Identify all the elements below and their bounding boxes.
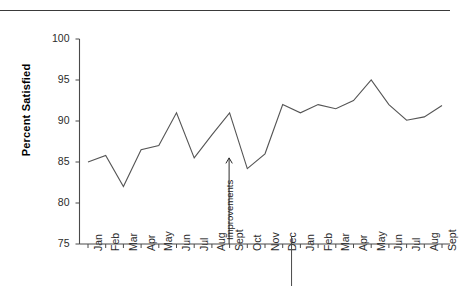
series-line	[88, 80, 442, 187]
axis-ticks	[76, 39, 443, 248]
plot-canvas	[0, 0, 462, 291]
line-chart: Percent Satisfied 1009590858075 JanFebMa…	[0, 0, 462, 291]
data-series	[88, 80, 442, 187]
annotation-arrow	[226, 158, 232, 244]
